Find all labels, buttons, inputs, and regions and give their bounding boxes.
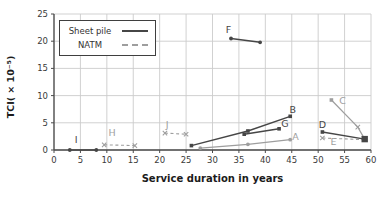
x-tick-label: 35 (234, 155, 245, 165)
series-marker-C (356, 125, 360, 129)
x-tick-label: 25 (181, 155, 192, 165)
y-tick-label: 15 (37, 63, 48, 73)
x-tick-label: 60 (366, 155, 377, 165)
y-axis-label: TCI( × 10⁻⁵) (5, 56, 16, 119)
chart-legend: Sheet pile NATM (59, 20, 156, 56)
series-label-J: J (165, 119, 169, 130)
x-tick-label: 15 (128, 155, 139, 165)
legend-line-sample-dashed (122, 44, 148, 46)
series-marker-D (362, 136, 368, 142)
series-marker-A (246, 142, 250, 146)
y-tick-label: 0 (43, 145, 48, 155)
series-line-C (331, 100, 364, 139)
series-marker-I (94, 148, 98, 152)
x-tick-label: 45 (286, 155, 297, 165)
series-marker-C (330, 98, 334, 102)
legend-row-sheet-pile: Sheet pile (64, 26, 148, 36)
series-label-C: C (339, 95, 346, 106)
x-tick-label: 5 (78, 155, 83, 165)
x-tick-label: 50 (313, 155, 324, 165)
legend-label-sheet-pile: Sheet pile (65, 26, 115, 36)
x-tick-label: 55 (339, 155, 350, 165)
series-line-A (200, 140, 290, 148)
series-marker-B (288, 115, 292, 119)
x-tick-label: 20 (154, 155, 165, 165)
series-label-I: I (75, 134, 78, 145)
y-tick-label: 25 (37, 9, 48, 19)
series-marker-D (321, 130, 325, 134)
series-marker-A (198, 146, 202, 150)
series-label-H: H (109, 127, 116, 138)
y-tick-label: 10 (37, 91, 48, 101)
series-marker-B (246, 129, 250, 133)
series-label-B: B (290, 104, 297, 115)
legend-row-natm: NATM (64, 40, 148, 50)
x-tick-label: 40 (260, 155, 271, 165)
x-tick-label: 10 (101, 155, 112, 165)
series-marker-F (258, 40, 262, 44)
series-marker-F (229, 37, 233, 41)
y-tick-label: 20 (37, 36, 48, 46)
series-label-F: F (226, 24, 231, 35)
x-axis-label: Service duration in years (54, 173, 371, 184)
series-label-D: D (319, 119, 326, 130)
series-marker-I (68, 148, 72, 152)
legend-label-natm: NATM (65, 40, 115, 50)
x-tick-label: 30 (207, 155, 218, 165)
series-line-J (165, 133, 186, 134)
legend-line-sample-solid (122, 30, 148, 32)
series-label-E: E (330, 136, 336, 147)
series-line-H (104, 145, 135, 146)
series-marker-G (242, 132, 246, 136)
x-tick-label: 0 (51, 155, 56, 165)
series-line-F (231, 39, 260, 43)
series-label-G: G (281, 118, 288, 129)
series-label-A: A (292, 131, 299, 142)
y-tick-label: 5 (43, 118, 48, 128)
series-marker-B (190, 144, 194, 148)
tci-service-duration-chart: 0510152025303540455055600510152025IHJABG… (0, 0, 390, 197)
